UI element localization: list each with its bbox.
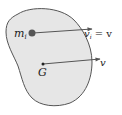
cm-label: G: [38, 66, 47, 79]
rigid-body-shape: [6, 9, 92, 106]
rigid-body-diagram: mi vi = v G v: [0, 0, 122, 115]
particle-velocity-label: vi = v: [84, 28, 112, 40]
cm-velocity-label: v: [100, 57, 106, 68]
particle-mass-dot: [29, 30, 36, 37]
